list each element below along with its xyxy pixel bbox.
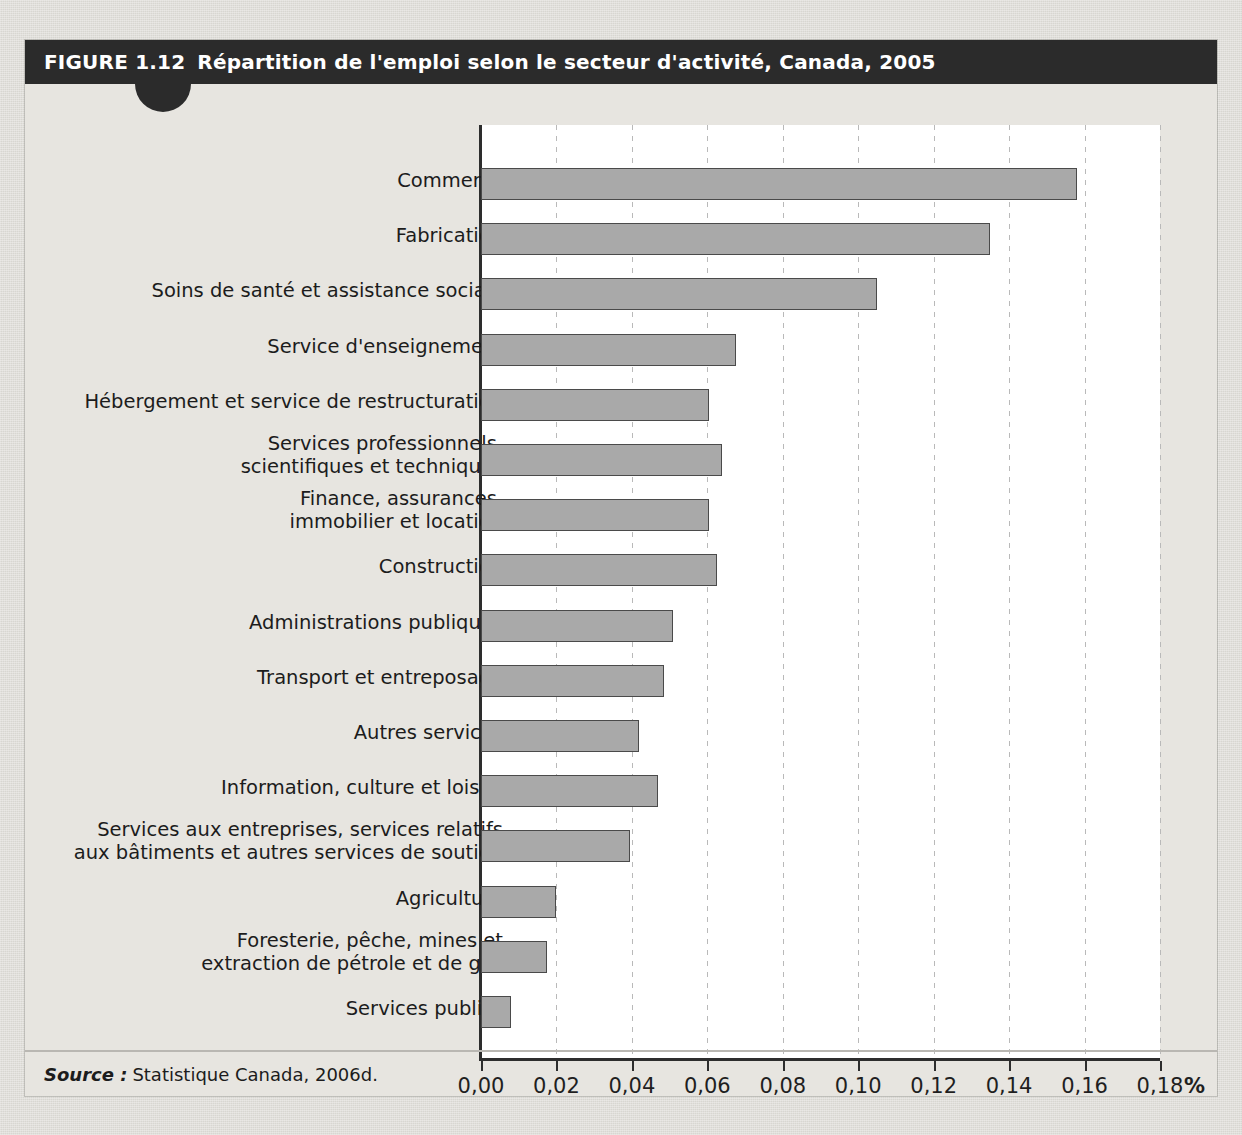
- bar: [481, 610, 673, 642]
- source-bar: Source :Statistique Canada, 2006d.: [25, 1050, 1217, 1096]
- bar-category-label: Foresterie, pêche, mines et extraction d…: [201, 930, 503, 976]
- figure-panel: FIGURE 1.12Répartition de l'emploi selon…: [25, 40, 1217, 1096]
- figure-page: FIGURE 1.12Répartition de l'emploi selon…: [0, 0, 1242, 1135]
- bar: [481, 554, 717, 586]
- bar: [481, 444, 722, 476]
- gridline: [858, 125, 859, 1058]
- bar-category-label: Services professionnels, scientifiques e…: [241, 433, 503, 479]
- gridline: [1085, 125, 1086, 1058]
- bar-category-label: Administrations publiques: [249, 612, 503, 635]
- gridline: [556, 125, 557, 1058]
- bar: [481, 941, 547, 973]
- bar-category-label: Soins de santé et assistance sociale: [152, 280, 503, 303]
- bar: [481, 720, 639, 752]
- figure-number: FIGURE 1.12: [44, 50, 185, 74]
- bar: [481, 886, 556, 918]
- gridline: [934, 125, 935, 1058]
- bar-category-label: Information, culture et loisirs: [221, 777, 503, 800]
- title-notch-decoration: [135, 84, 191, 112]
- bar-category-label: Hébergement et service de restructuratio…: [84, 391, 503, 414]
- bar: [481, 499, 709, 531]
- source-text: Source :Statistique Canada, 2006d.: [25, 1064, 378, 1085]
- gridline: [783, 125, 784, 1058]
- plot-area: [479, 125, 1160, 1058]
- bar: [481, 168, 1077, 200]
- figure-title-bar: FIGURE 1.12Répartition de l'emploi selon…: [25, 40, 1217, 84]
- bar-category-label: Services aux entreprises, services relat…: [74, 819, 503, 865]
- bar: [481, 389, 709, 421]
- gridline: [707, 125, 708, 1058]
- bar: [481, 278, 877, 310]
- bar: [481, 334, 736, 366]
- y-axis-line: [479, 125, 482, 1061]
- bar: [481, 996, 511, 1028]
- figure-title-line: FIGURE 1.12Répartition de l'emploi selon…: [25, 50, 936, 74]
- bar-category-label: Transport et entreposage: [257, 667, 503, 690]
- page-title: Répartition de l'emploi selon le secteur…: [197, 50, 935, 74]
- bar: [481, 223, 990, 255]
- gridline: [1009, 125, 1010, 1058]
- bar-category-label: Services publics: [346, 998, 503, 1021]
- bar: [481, 665, 664, 697]
- gridline: [1160, 125, 1161, 1058]
- bar: [481, 830, 630, 862]
- gridline: [632, 125, 633, 1058]
- bar: [481, 775, 658, 807]
- source-value: Statistique Canada, 2006d.: [132, 1064, 378, 1085]
- source-label: Source :: [44, 1064, 127, 1085]
- bar-category-label: Service d'enseignement: [267, 336, 503, 359]
- bar-category-label: Finance, assurances, immobilier et locat…: [290, 488, 503, 534]
